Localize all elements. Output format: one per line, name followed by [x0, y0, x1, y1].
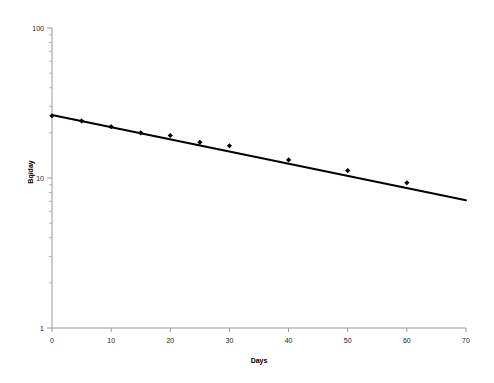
trend-line [52, 115, 466, 200]
data-point [79, 118, 84, 123]
y-axis-title: Bq/day [27, 160, 35, 183]
data-point [227, 143, 232, 148]
x-tick-label-0: 0 [50, 337, 54, 344]
x-tick-label-10: 10 [107, 337, 115, 344]
chart-figure: 110100 010203040506070 Days Bq/day [0, 0, 494, 383]
x-axis-title: Days [251, 357, 268, 365]
data-point-group [49, 113, 409, 185]
x-axis-tick-labels: 010203040506070 [50, 337, 470, 344]
x-tick-label-20: 20 [166, 337, 174, 344]
log-decay-chart: 110100 010203040506070 Days Bq/day [0, 0, 494, 383]
x-axis-major-ticks [52, 328, 466, 332]
data-point [404, 180, 409, 185]
y-tick-label-10: 10 [36, 175, 44, 182]
x-tick-label-50: 50 [344, 337, 352, 344]
data-point [49, 113, 54, 118]
x-tick-label-60: 60 [403, 337, 411, 344]
y-axis-tick-labels: 110100 [32, 25, 44, 332]
x-tick-label-40: 40 [285, 337, 293, 344]
x-tick-label-70: 70 [462, 337, 470, 344]
data-point [286, 157, 291, 162]
x-tick-label-30: 30 [226, 337, 234, 344]
data-point [345, 168, 350, 173]
data-point [168, 133, 173, 138]
y-tick-label-1: 1 [40, 325, 44, 332]
y-tick-label-100: 100 [32, 25, 44, 32]
